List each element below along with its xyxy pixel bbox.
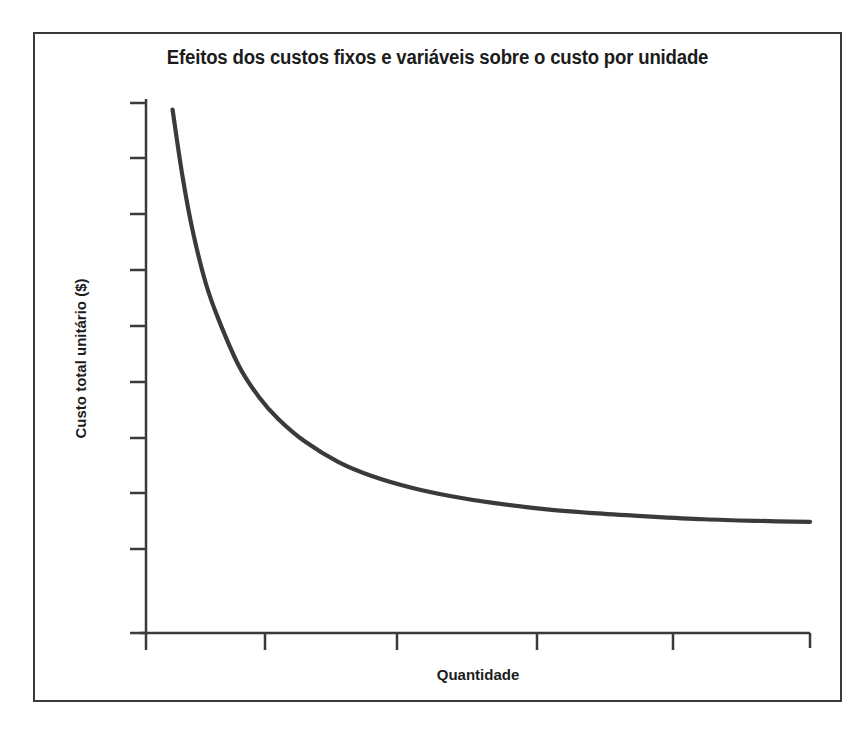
figure-root: Efeitos dos custos fixos e variáveis sob… [0,0,864,730]
y-axis-label: Custo total unitário ($) [72,259,89,459]
chart-plot-area [0,0,864,730]
y-axis-ticks [130,103,146,633]
x-axis-label: Quantidade [146,666,810,683]
x-axis-ticks [146,633,673,650]
cost-per-unit-curve [173,110,810,522]
